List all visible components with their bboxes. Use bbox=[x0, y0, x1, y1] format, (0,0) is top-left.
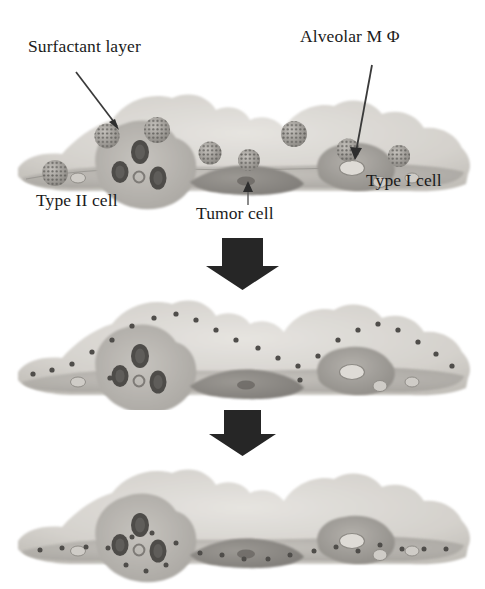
macrophage-nucleus bbox=[340, 534, 365, 549]
nanoparticle bbox=[388, 145, 410, 167]
label-tumor-cell: Tumor cell bbox=[196, 203, 274, 224]
vesicle bbox=[71, 377, 86, 387]
vesicle bbox=[373, 381, 387, 392]
label-alveolar-macrophage: Alveolar M Φ bbox=[300, 26, 400, 47]
panel-uptake bbox=[0, 455, 485, 585]
panel-surfactant-wetting bbox=[0, 290, 485, 410]
macrophage-nucleus bbox=[340, 365, 365, 380]
vesicle bbox=[71, 173, 86, 183]
flow-arrow-2 bbox=[0, 408, 485, 458]
nanoparticle bbox=[199, 142, 222, 165]
nanoparticle bbox=[42, 160, 68, 186]
nanoparticle bbox=[238, 149, 260, 171]
surfactant-layer-arrow bbox=[76, 72, 119, 130]
nanoparticle bbox=[281, 121, 307, 147]
label-type-ii-cell: Type II cell bbox=[36, 190, 118, 211]
vesicle bbox=[373, 550, 387, 561]
macrophage-nucleus bbox=[340, 161, 365, 176]
nanoparticle bbox=[144, 117, 170, 143]
vesicle bbox=[71, 546, 86, 556]
label-surfactant-layer: Surfactant layer bbox=[28, 36, 141, 57]
vesicle bbox=[405, 377, 419, 387]
label-type-i-cell: Type I cell bbox=[366, 170, 442, 191]
flow-arrow-1 bbox=[0, 236, 485, 292]
figure-canvas: Surfactant layer Alveolar M Φ Type II ce… bbox=[0, 0, 485, 589]
vesicle bbox=[405, 546, 419, 556]
